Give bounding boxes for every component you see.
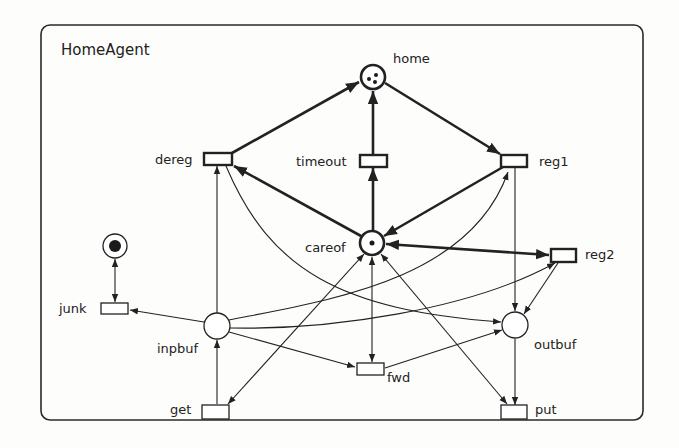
place-label-home: home xyxy=(393,51,430,66)
token xyxy=(374,73,378,77)
transition-label-put: put xyxy=(535,402,557,417)
transition-reg1: reg1 xyxy=(501,154,569,169)
transition-put: put xyxy=(501,402,557,419)
token xyxy=(373,80,377,84)
transition-timeout: timeout xyxy=(296,154,387,169)
arc-home-reg1 xyxy=(385,83,500,154)
token xyxy=(109,240,121,252)
transition-reg2: reg2 xyxy=(551,247,615,262)
place-outbuf: outbuf xyxy=(502,312,577,352)
homeagent-frame xyxy=(41,25,643,420)
diagram-title: HomeAgent xyxy=(61,41,150,59)
arc-careof-dereg xyxy=(234,166,361,236)
place-label-careof: careof xyxy=(305,240,346,255)
place-junk xyxy=(103,234,127,258)
arc-dereg-home xyxy=(232,82,359,153)
thin-arcs xyxy=(115,166,558,405)
transition-junk: junk xyxy=(58,301,128,316)
token xyxy=(367,77,371,81)
place-label-outbuf: outbuf xyxy=(534,337,577,352)
place-home: home xyxy=(361,51,430,89)
transition-fwd: fwd xyxy=(357,363,410,385)
arc-fwd-outbuf xyxy=(385,330,502,368)
place-careof: careof xyxy=(305,231,384,255)
transition-get: get xyxy=(170,402,229,419)
bold-arcs xyxy=(232,82,549,255)
transition-label-fwd: fwd xyxy=(387,370,410,385)
transition-label-get: get xyxy=(170,402,191,417)
transition-label-dereg: dereg xyxy=(155,152,193,167)
transition-dereg: dereg xyxy=(155,152,232,167)
arc-inpbuf-fwd xyxy=(229,332,355,367)
place-inpbuf: inpbuf xyxy=(157,313,230,356)
arc-careof-get xyxy=(228,254,364,404)
arc-inpbuf-junk xyxy=(130,310,204,322)
arc-careof-reg2 xyxy=(386,244,549,255)
place-label-inpbuf: inpbuf xyxy=(157,341,199,356)
transition-label-reg1: reg1 xyxy=(539,154,569,169)
transition-label-timeout: timeout xyxy=(296,154,347,169)
transition-label-reg2: reg2 xyxy=(585,247,615,262)
petri-net-diagram: HomeAgent xyxy=(0,0,679,448)
transition-label-junk: junk xyxy=(58,301,87,316)
token xyxy=(370,241,375,246)
arc-reg1-careof xyxy=(384,167,503,236)
